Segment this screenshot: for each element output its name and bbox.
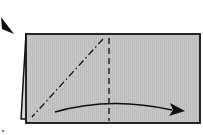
origami-diagram: [0, 0, 203, 135]
page-mark: [2, 130, 4, 132]
corner-pointer-icon: [1, 17, 14, 34]
